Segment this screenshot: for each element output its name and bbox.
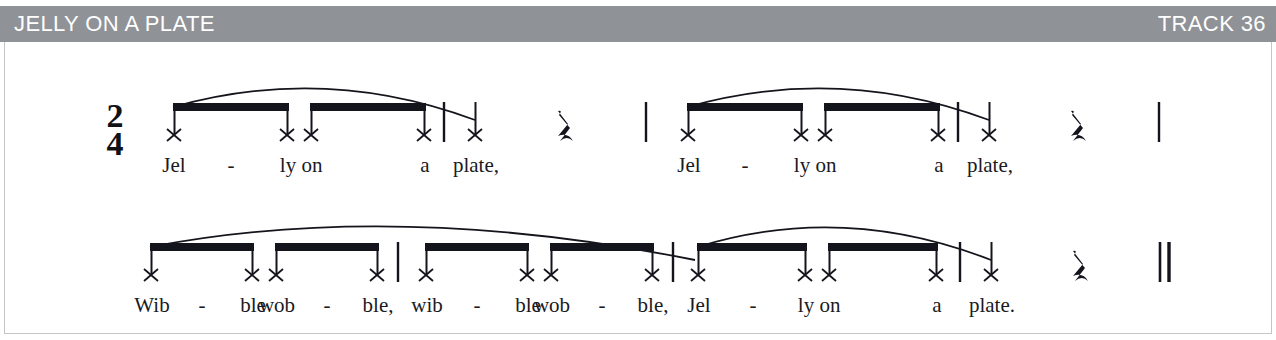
lyrics-line-2: Wib - ble wob - ble, wib - ble wob - ble… bbox=[134, 293, 1015, 317]
beam-group-m3-b bbox=[818, 103, 945, 141]
lyric-syllable: wib bbox=[411, 293, 443, 317]
lyric-syllable: a bbox=[934, 153, 944, 177]
beam bbox=[824, 103, 940, 111]
lyric-syllable: ly bbox=[280, 153, 297, 177]
beam bbox=[275, 243, 379, 251]
beam-group-m5-a bbox=[144, 243, 259, 281]
beam bbox=[697, 243, 807, 251]
lyric-hyphen: - bbox=[474, 293, 481, 317]
lyric-hyphen: - bbox=[742, 153, 749, 177]
sheet-music-page: JELLY ON A PLATE TRACK 36 2 4 bbox=[0, 0, 1276, 340]
lyric-hyphen: - bbox=[228, 153, 235, 177]
lyric-syllable: Wib bbox=[134, 293, 169, 317]
system-1: 2 4 bbox=[107, 88, 1160, 177]
lyric-syllable: plate. bbox=[969, 293, 1015, 317]
lyric-syllable: on bbox=[302, 153, 324, 177]
quarter-note-plate-3 bbox=[984, 242, 998, 281]
quarter-rest-2 bbox=[1071, 111, 1086, 141]
beam bbox=[687, 103, 803, 111]
beam-group-m7-b bbox=[822, 243, 943, 281]
lyric-syllable: ble, bbox=[638, 293, 669, 317]
beam bbox=[173, 103, 289, 111]
beam bbox=[150, 243, 254, 251]
beam bbox=[828, 243, 938, 251]
lyric-syllable: Jel bbox=[677, 153, 700, 177]
lyric-syllable: ble, bbox=[363, 293, 394, 317]
time-signature-2-4: 2 4 bbox=[107, 97, 124, 162]
track-number-label: TRACK 36 bbox=[1158, 13, 1266, 35]
lyric-syllable: plate, bbox=[967, 153, 1013, 177]
lyric-hyphen: - bbox=[750, 293, 757, 317]
beam-group-m3-a bbox=[681, 103, 808, 141]
page-title: JELLY ON A PLATE bbox=[14, 13, 215, 35]
quarter-rest-3 bbox=[1073, 251, 1088, 281]
lyric-hyphen: - bbox=[324, 293, 331, 317]
lyric-syllable: on bbox=[816, 153, 838, 177]
music-notation-svg: 2 4 bbox=[5, 42, 1271, 332]
lyric-syllable: wob bbox=[534, 293, 570, 317]
score-frame: 2 4 bbox=[4, 42, 1272, 334]
lyric-syllable: wob bbox=[259, 293, 295, 317]
beam bbox=[310, 103, 426, 111]
lyrics-line-1: Jel - ly on a plate, Jel - ly on a plate… bbox=[162, 153, 1013, 177]
beam-group-m1-a bbox=[167, 103, 294, 141]
beam bbox=[425, 243, 529, 251]
lyric-hyphen: - bbox=[599, 293, 606, 317]
lyric-syllable: on bbox=[820, 293, 842, 317]
lyric-syllable: plate, bbox=[453, 153, 499, 177]
final-double-barline bbox=[1160, 242, 1169, 282]
lyric-syllable: Jel bbox=[687, 293, 710, 317]
beam-group-m6-b bbox=[544, 243, 659, 281]
quarter-rest-1 bbox=[558, 111, 573, 141]
beam bbox=[550, 243, 654, 251]
beam-group-m7-a bbox=[691, 243, 812, 281]
lyric-syllable: a bbox=[932, 293, 942, 317]
lyric-syllable: ly bbox=[794, 153, 811, 177]
title-bar: JELLY ON A PLATE TRACK 36 bbox=[0, 6, 1276, 42]
time-signature-denominator: 4 bbox=[107, 125, 124, 162]
beam-group-m6-a bbox=[419, 243, 534, 281]
lyric-hyphen: - bbox=[199, 293, 206, 317]
lyric-syllable: Jel bbox=[162, 153, 185, 177]
beam-group-m5-b bbox=[269, 243, 384, 281]
lyric-syllable: a bbox=[420, 153, 430, 177]
quarter-note-plate-2 bbox=[982, 102, 996, 141]
quarter-note-plate-1 bbox=[468, 102, 482, 141]
beam-group-m1-b bbox=[304, 103, 431, 141]
lyric-syllable: ly bbox=[798, 293, 815, 317]
system-2: Wib - ble wob - ble, wib - ble wob - ble… bbox=[134, 226, 1169, 317]
